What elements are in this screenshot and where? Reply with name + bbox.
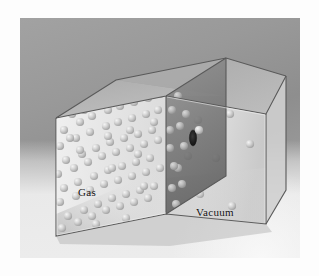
particle bbox=[140, 182, 148, 190]
glass-box-scene bbox=[20, 18, 300, 258]
particle bbox=[74, 178, 82, 186]
particle bbox=[144, 194, 152, 202]
particle bbox=[120, 134, 128, 142]
particle bbox=[178, 180, 186, 188]
particle bbox=[182, 110, 190, 118]
particle bbox=[88, 212, 96, 220]
particle bbox=[114, 118, 122, 126]
particle bbox=[148, 126, 156, 134]
particle bbox=[146, 154, 154, 162]
particle bbox=[126, 126, 134, 134]
vacuum-label: Vacuum bbox=[196, 206, 234, 218]
particle bbox=[102, 122, 110, 130]
particle bbox=[142, 110, 150, 118]
particle bbox=[104, 132, 112, 140]
particle bbox=[66, 134, 74, 142]
particle bbox=[154, 136, 162, 144]
particle bbox=[114, 176, 122, 184]
particle bbox=[128, 172, 136, 180]
particle bbox=[132, 158, 140, 166]
particle bbox=[102, 206, 110, 214]
particle bbox=[112, 148, 120, 156]
particle bbox=[88, 112, 96, 120]
particle bbox=[246, 140, 254, 148]
particle bbox=[180, 142, 188, 150]
particle bbox=[226, 110, 234, 118]
particle bbox=[100, 180, 108, 188]
particle bbox=[170, 162, 178, 170]
particle bbox=[108, 164, 116, 172]
particle bbox=[58, 224, 66, 232]
particle bbox=[166, 126, 174, 134]
gas-label: Gas bbox=[78, 186, 96, 198]
particle bbox=[64, 212, 72, 220]
particle bbox=[76, 118, 84, 126]
particle bbox=[94, 200, 102, 208]
particle bbox=[150, 118, 158, 126]
particle bbox=[122, 190, 130, 198]
particle bbox=[134, 130, 142, 138]
particle bbox=[76, 146, 84, 154]
particle bbox=[60, 184, 68, 192]
particle bbox=[108, 194, 116, 202]
particle bbox=[150, 182, 158, 190]
particle bbox=[166, 144, 174, 152]
particle bbox=[54, 170, 62, 178]
particle bbox=[126, 144, 134, 152]
particle bbox=[176, 122, 184, 130]
particle bbox=[154, 106, 162, 114]
particle bbox=[118, 162, 126, 170]
particle bbox=[140, 140, 148, 148]
particle bbox=[80, 206, 88, 214]
illustration-backdrop: Gas Vacuum bbox=[20, 18, 300, 258]
figure-page: Gas Vacuum bbox=[0, 0, 319, 276]
particle bbox=[116, 202, 124, 210]
particle bbox=[86, 128, 94, 136]
particle bbox=[130, 198, 138, 206]
particle bbox=[92, 144, 100, 152]
escaping-particle bbox=[195, 126, 203, 134]
particle bbox=[60, 126, 68, 134]
particle bbox=[168, 184, 176, 192]
particle bbox=[70, 164, 78, 172]
particle bbox=[168, 106, 176, 114]
particle bbox=[128, 114, 136, 122]
particle bbox=[62, 156, 70, 164]
particle bbox=[156, 164, 164, 172]
particle bbox=[98, 152, 106, 160]
particle bbox=[142, 168, 150, 176]
particle bbox=[84, 158, 92, 166]
particle bbox=[134, 150, 142, 158]
particle bbox=[74, 218, 82, 226]
particle bbox=[90, 172, 98, 180]
